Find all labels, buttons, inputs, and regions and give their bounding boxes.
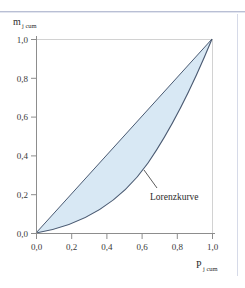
lorenzkurve-annotation-label: Lorenzkurve [150,192,199,202]
y-tick-label-3: 0,6 [17,112,29,122]
y-tick-label-5: 0,2 [17,190,28,200]
x-tick-label-6: 1,0 [207,242,219,252]
y-axis-label-subscript: j cum [21,22,37,29]
y-tick-label-6: 0,0 [17,229,29,239]
chart-canvas: 1,0 0,8 0,6 0,4 0,2 0,0 0,0 0,2 0,4 0,6 … [0,0,245,288]
x-tick-label-4: 0,6 [136,242,148,252]
y-tick-label-4: 0,4 [17,151,29,161]
x-tick-label-2: 0,2 [66,242,77,252]
lorenzkurve-leader-line [144,170,157,188]
lorenz-curve-figure: 1,0 0,8 0,6 0,4 0,2 0,0 0,0 0,2 0,4 0,6 … [0,0,245,288]
x-tick-label-1: 0,0 [31,242,43,252]
x-axis-label-subscript: j cum [202,265,218,272]
x-tick-label-3: 0,4 [101,242,113,252]
y-tick-label-2: 0,8 [17,74,29,84]
y-axis-label-main: m [13,16,21,27]
y-tick-label-1: 1,0 [17,35,29,45]
x-axis-label-main: P [196,259,202,270]
equality-line [36,39,212,233]
x-tick-label-5: 0,8 [172,242,184,252]
